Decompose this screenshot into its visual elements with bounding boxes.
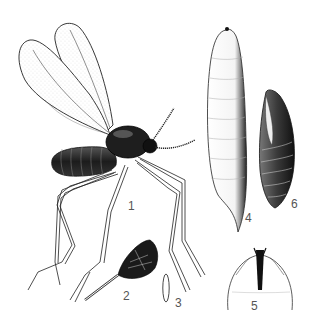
head [143,139,157,153]
label-egg: 3 [175,297,182,309]
label-larva: 4 [245,212,252,224]
legs [28,157,205,302]
larva [207,27,246,232]
antenna [155,140,195,148]
label-larva-head: 5 [251,300,258,312]
leg-tarsus-detail [85,240,158,300]
drawing [0,0,316,331]
illustration-plate: 1 2 3 4 5 6 [0,0,316,331]
label-pupa: 6 [291,198,298,210]
larva-head [228,248,293,310]
label-leg-detail: 2 [123,290,130,302]
adult-fly [19,23,205,302]
egg [163,274,169,302]
label-adult: 1 [128,200,135,212]
antenna [153,108,174,140]
pupa [259,90,294,208]
